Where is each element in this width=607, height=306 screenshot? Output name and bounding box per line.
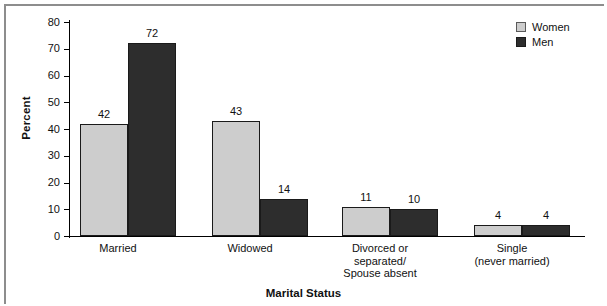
y-tick-label-40: 40	[34, 124, 60, 135]
x-category-label-widowed: Widowed	[180, 242, 320, 255]
value-men-widowed: 14	[260, 184, 308, 195]
legend-label-men: Men	[532, 37, 553, 48]
x-category-label-single: Single (never married)	[442, 242, 582, 267]
value-women-married: 42	[80, 109, 128, 120]
bar-women-divorced[interactable]	[342, 207, 390, 236]
x-axis-label: Marital Status	[0, 287, 607, 299]
value-women-widowed: 43	[212, 106, 260, 117]
plot-area: 42 72 43 14 11 10 4 4	[70, 22, 585, 236]
x-category-label-married: Married	[48, 242, 188, 255]
y-tick-label-60: 60	[34, 70, 60, 81]
bar-men-married[interactable]	[128, 43, 176, 236]
legend-label-women: Women	[532, 22, 570, 33]
y-tick-label-10: 10	[34, 204, 60, 215]
y-tick-label-80: 80	[34, 17, 60, 28]
legend-item-men[interactable]: Men	[516, 35, 570, 49]
value-women-divorced: 11	[342, 192, 390, 203]
figure-top-rule	[4, 4, 604, 6]
bar-men-widowed[interactable]	[260, 199, 308, 236]
bar-women-single[interactable]	[474, 225, 522, 236]
bar-women-married[interactable]	[80, 124, 128, 236]
y-tick-label-30: 30	[34, 150, 60, 161]
legend-swatch-women-icon	[516, 22, 526, 32]
y-axis-label: Percent	[20, 78, 32, 158]
legend-swatch-men-icon	[516, 37, 526, 47]
value-men-married: 72	[128, 28, 176, 39]
legend-item-women[interactable]: Women	[516, 20, 570, 34]
value-men-single: 4	[522, 210, 570, 221]
value-men-divorced: 10	[390, 194, 438, 205]
y-tick-label-50: 50	[34, 97, 60, 108]
x-category-label-divorced: Divorced or separated/ Spouse absent	[310, 242, 450, 280]
bar-chart-figure: 80 70 60 50 40 30 20 10 0 Percent Marita…	[0, 0, 607, 306]
bar-women-widowed[interactable]	[212, 121, 260, 236]
y-tick-label-20: 20	[34, 177, 60, 188]
value-women-single: 4	[474, 210, 522, 221]
chart-legend: Women Men	[516, 20, 570, 50]
y-tick-label-70: 70	[34, 43, 60, 54]
x-axis-line	[69, 236, 585, 237]
y-tick-0	[64, 236, 70, 237]
y-tick-label-0: 0	[34, 231, 60, 242]
bar-men-divorced[interactable]	[390, 209, 438, 236]
bar-men-single[interactable]	[522, 225, 570, 236]
figure-left-rule	[4, 4, 6, 304]
